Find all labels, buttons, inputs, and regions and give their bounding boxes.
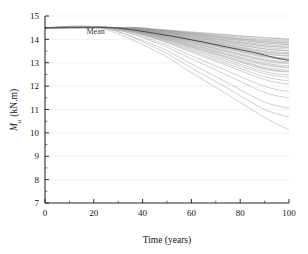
moment-capacity-degradation-chart: 020406080100 789101112131415 Mean Time (… <box>0 0 308 254</box>
x-tick-label: 80 <box>236 208 246 218</box>
y-tick-label: 12 <box>30 81 39 91</box>
x-tick-label: 20 <box>89 208 99 218</box>
x-tick-label: 60 <box>187 208 197 218</box>
y-axis-units: (kN.m) <box>9 89 20 117</box>
mean-annotation-label: Mean <box>86 27 104 36</box>
y-tick-label: 13 <box>30 58 40 68</box>
y-tick-label: 7 <box>35 198 40 208</box>
x-tick-label: 40 <box>138 208 148 218</box>
x-tick-label: 100 <box>282 208 296 218</box>
x-tick-label: 0 <box>43 208 48 218</box>
y-tick-label: 11 <box>30 105 39 115</box>
x-axis-title: Time (years) <box>143 235 191 246</box>
y-tick-label: 10 <box>30 128 40 138</box>
y-axis-subscript: u <box>15 119 23 123</box>
y-tick-label: 14 <box>30 35 40 45</box>
y-tick-label: 8 <box>35 175 40 185</box>
annotations: Mean <box>86 27 104 36</box>
y-tick-label: 15 <box>30 11 40 21</box>
y-tick-label: 9 <box>35 151 40 161</box>
